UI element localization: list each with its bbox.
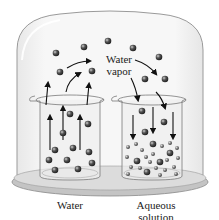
vapor-label-line2: vapor [96,65,142,77]
vapor-label-line1: Water [96,53,142,65]
water-beaker-label-text: Water [45,199,95,211]
water-beaker [30,95,104,180]
vapor-pressure-diagram [0,0,219,220]
solution-label-line2: solution [128,211,184,220]
solution-label-line1: Aqueous [128,199,184,211]
solution-beaker-label: Aqueous solution [128,199,184,220]
water-beaker-label: Water [45,199,95,211]
vapor-label: Water vapor [96,53,142,77]
